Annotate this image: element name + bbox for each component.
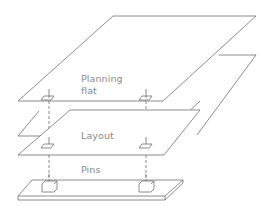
back-sheet <box>197 55 256 135</box>
pin-block-left <box>42 174 57 192</box>
planning-flat-label: Planning flat <box>81 73 123 97</box>
layout-label: Layout <box>81 130 114 142</box>
pins-label: Pins <box>81 164 101 176</box>
planning-flat-label-line1: Planning <box>81 73 123 85</box>
diagram-canvas <box>0 0 272 221</box>
planning-flat-plane <box>18 16 256 101</box>
planning-flat-label-line2: flat <box>81 85 123 97</box>
layer-stack-diagram: Planning flat Layout Pins <box>0 0 272 221</box>
pin-block-right <box>139 174 154 192</box>
